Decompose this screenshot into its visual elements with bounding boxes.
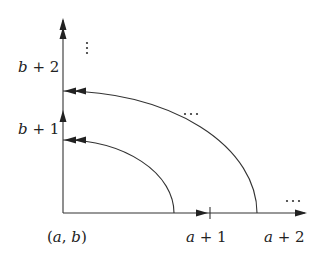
x-tick-label-a1: a + 1 bbox=[186, 228, 227, 246]
diagram: b + 2 b + 1 (a, b) a + 1 a + 2 bbox=[0, 0, 323, 256]
outer-arc bbox=[63, 91, 257, 213]
x-axis-arrowhead-mid-icon bbox=[196, 210, 208, 217]
y-axis-arrowhead-mid-icon bbox=[60, 110, 67, 122]
x-axis-arrowhead-end-icon bbox=[295, 210, 307, 217]
x-tick-label-a2: a + 2 bbox=[264, 228, 305, 246]
y-tick-label-b2: b + 2 bbox=[18, 58, 59, 76]
y-tick-label-b1: b + 1 bbox=[18, 120, 59, 138]
middle-ellipsis bbox=[184, 113, 198, 115]
inner-arc bbox=[63, 140, 174, 213]
origin-label: (a, b) bbox=[47, 228, 87, 246]
horizontal-ellipsis bbox=[286, 200, 300, 202]
vertical-ellipsis bbox=[86, 42, 88, 54]
